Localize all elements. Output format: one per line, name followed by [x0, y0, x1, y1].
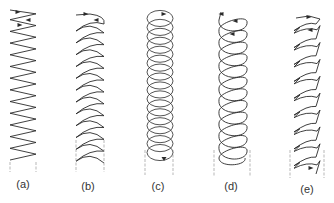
- panel-c: [145, 10, 173, 175]
- loop-ellipse: [147, 109, 173, 125]
- zigzag-path: [10, 10, 36, 160]
- arrow-icon: [84, 12, 89, 16]
- arrow-icon: [16, 10, 21, 14]
- panel-label-a: (a): [16, 178, 29, 190]
- loop-ellipse: [147, 73, 173, 89]
- loop-ellipse: [147, 118, 173, 134]
- panel-label-c: (c): [152, 180, 165, 192]
- arrow-icon: [162, 12, 167, 16]
- loop-ellipse: [147, 46, 173, 62]
- loop-ellipse: [147, 37, 173, 53]
- loop-ellipse: [147, 19, 173, 35]
- panel-d: [214, 12, 250, 176]
- panel-label-d: (d): [224, 180, 237, 192]
- motion-path-diagram: [0, 0, 334, 203]
- loop-ellipse: [147, 64, 173, 80]
- arrow-icon: [94, 18, 99, 22]
- loop-ellipse: [147, 127, 173, 143]
- arrow-icon: [309, 166, 314, 170]
- panel-label-e: (e): [300, 183, 313, 195]
- panel-e: [290, 15, 324, 178]
- loop-ellipse: [147, 55, 173, 71]
- panel-b: [76, 12, 104, 172]
- panel-label-b: (b): [81, 180, 94, 192]
- arrow-icon: [26, 18, 31, 22]
- jagged-crescent-path: [294, 16, 320, 174]
- loop-ellipse: [147, 136, 173, 152]
- loop-ellipse: [147, 100, 173, 116]
- loop-ellipse: [147, 10, 173, 26]
- loop-ellipse: [147, 91, 173, 107]
- loop-ellipse: [147, 82, 173, 98]
- crescent-path: [76, 14, 104, 163]
- loop-ellipse: [147, 144, 173, 160]
- panel-a: [10, 10, 36, 172]
- arrow-icon: [18, 23, 23, 27]
- loop-ellipse: [147, 28, 173, 44]
